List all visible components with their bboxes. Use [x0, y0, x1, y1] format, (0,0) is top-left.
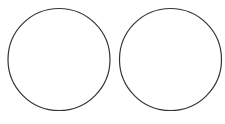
- left-circle: [8, 9, 110, 111]
- diagram-svg: [0, 0, 225, 124]
- diagram-canvas: [0, 0, 225, 124]
- right-circle: [120, 9, 222, 111]
